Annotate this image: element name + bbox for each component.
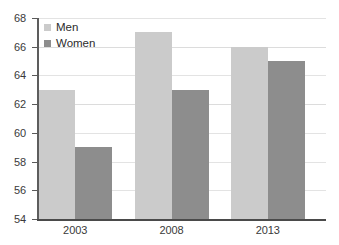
y-axis-tick-mark bbox=[32, 104, 37, 105]
legend: Men Women bbox=[44, 20, 95, 50]
bar-women-2003[interactable] bbox=[75, 147, 112, 219]
bar-men-2013[interactable] bbox=[231, 47, 268, 219]
y-axis-tick-mark bbox=[32, 190, 37, 191]
legend-swatch-women-icon bbox=[44, 40, 51, 47]
legend-swatch-men-icon bbox=[44, 24, 51, 31]
y-axis-tick-mark bbox=[32, 75, 37, 76]
y-axis-tick-label: 62 bbox=[0, 98, 26, 110]
x-axis-tick-label: 2008 bbox=[159, 224, 183, 236]
y-axis-tick-label: 64 bbox=[0, 69, 26, 81]
y-axis-tick-mark bbox=[32, 47, 37, 48]
y-axis-tick-label: 68 bbox=[0, 12, 26, 24]
legend-item-women[interactable]: Women bbox=[44, 36, 95, 50]
x-axis-tick-label: 2013 bbox=[256, 224, 280, 236]
x-axis-line bbox=[37, 219, 326, 221]
bar-women-2008[interactable] bbox=[172, 90, 209, 219]
y-axis-line bbox=[37, 18, 39, 220]
y-axis-tick-mark bbox=[32, 162, 37, 163]
y-axis-tick-mark bbox=[32, 219, 37, 220]
y-axis-tick-mark bbox=[32, 18, 37, 19]
y-axis-tick-label: 54 bbox=[0, 213, 26, 225]
y-axis-tick-label: 56 bbox=[0, 184, 26, 196]
y-axis-tick-label: 66 bbox=[0, 41, 26, 53]
bar-women-2013[interactable] bbox=[268, 61, 305, 219]
y-axis-tick-mark bbox=[32, 133, 37, 134]
legend-label-men: Men bbox=[56, 21, 78, 34]
legend-label-women: Women bbox=[56, 37, 95, 50]
bar-group bbox=[135, 18, 209, 219]
bar-men-2003[interactable] bbox=[38, 90, 75, 219]
bar-group bbox=[231, 18, 305, 219]
bar-chart: 6866646260585654 200320082013 Men Women bbox=[0, 0, 339, 245]
legend-item-men[interactable]: Men bbox=[44, 20, 95, 34]
bar-men-2008[interactable] bbox=[135, 32, 172, 219]
x-axis-tick-label: 2003 bbox=[63, 224, 87, 236]
y-axis-tick-label: 60 bbox=[0, 127, 26, 139]
y-axis-tick-label: 58 bbox=[0, 156, 26, 168]
